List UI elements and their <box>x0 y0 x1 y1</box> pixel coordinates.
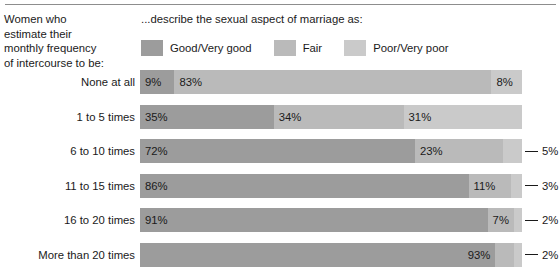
stub-header: Women who estimate their monthly frequen… <box>4 12 136 70</box>
leader-line <box>525 151 538 152</box>
stub-header-line-4: of intercourse to be: <box>4 56 136 71</box>
bar-segment-poor[interactable] <box>503 139 522 163</box>
bar-segment-good[interactable]: 72% <box>140 139 415 163</box>
row-category-label: More than 20 times <box>38 243 135 267</box>
bar-segment-fair[interactable]: 7% <box>488 208 515 232</box>
chart-row: 6 to 10 times5%72%23% <box>0 139 560 174</box>
stub-header-line-2: estimate their <box>4 27 136 42</box>
legend-label: Fair <box>303 40 322 56</box>
bar-segment-poor[interactable] <box>514 243 522 267</box>
segment-value-label: 72% <box>145 139 168 163</box>
chart-title: ...describe the sexual aspect of marriag… <box>141 12 363 27</box>
segment-callout-label: 3% <box>525 174 558 198</box>
stacked-bar: 86%11% <box>140 174 522 198</box>
bar-segment-poor[interactable] <box>514 208 522 232</box>
segment-value-label: 23% <box>420 139 443 163</box>
segment-value-label: 8% <box>496 70 512 94</box>
bar-segment-good[interactable]: 93% <box>140 243 495 267</box>
bar-segment-good[interactable]: 86% <box>140 174 469 198</box>
leader-line <box>525 185 538 186</box>
bar-segment-fair[interactable]: 11% <box>469 174 511 198</box>
legend-swatch-icon <box>274 40 296 56</box>
chart-row: 11 to 15 times3%86%11% <box>0 174 560 209</box>
bar-segment-good[interactable]: 91% <box>140 208 488 232</box>
stub-header-line-3: monthly frequency <box>4 41 136 56</box>
legend-swatch-icon <box>141 40 163 56</box>
segment-value-label: 11% <box>474 174 496 198</box>
segment-value-label: 34% <box>279 105 302 129</box>
bar-segment-poor[interactable]: 8% <box>491 70 522 94</box>
row-category-label: 16 to 20 times <box>64 208 135 232</box>
segment-callout-label: 2% <box>525 243 558 267</box>
chart-row: 1 to 5 times35%34%31% <box>0 105 560 140</box>
segment-value-label: 35% <box>145 105 168 129</box>
bar-segment-fair[interactable]: 23% <box>415 139 503 163</box>
row-category-label: None at all <box>81 70 135 94</box>
segment-value-label: 2% <box>542 208 558 232</box>
segment-value-label: 91% <box>145 208 168 232</box>
bar-segment-good[interactable]: 9% <box>140 70 174 94</box>
segment-value-label: 3% <box>542 174 558 198</box>
bar-segment-poor[interactable]: 31% <box>404 105 522 129</box>
segment-value-label: 2% <box>542 243 558 267</box>
bar-segment-fair[interactable] <box>495 243 514 267</box>
bar-segment-fair[interactable]: 83% <box>174 70 491 94</box>
segment-value-label: 86% <box>145 174 168 198</box>
legend-swatch-icon <box>344 40 366 56</box>
chart-row: None at all9%83%8% <box>0 70 560 105</box>
stacked-bar: 93% <box>140 243 522 267</box>
stacked-bar: 35%34%31% <box>140 105 522 129</box>
stub-header-line-1: Women who <box>4 12 136 27</box>
segment-callout-label: 5% <box>525 139 558 163</box>
bar-segment-good[interactable]: 35% <box>140 105 274 129</box>
bar-segment-poor[interactable] <box>511 174 522 198</box>
legend-label: Good/Very good <box>170 40 252 56</box>
row-category-label: 11 to 15 times <box>65 174 135 198</box>
segment-value-label: 7% <box>493 208 509 232</box>
chart-plot-area: None at all9%83%8%1 to 5 times35%34%31%6… <box>0 70 560 278</box>
row-category-label: 6 to 10 times <box>70 139 135 163</box>
legend-item: Good/Very good <box>141 40 252 56</box>
segment-value-label: 31% <box>409 105 432 129</box>
legend-label: Poor/Very poor <box>373 40 448 56</box>
bar-segment-fair[interactable]: 34% <box>274 105 404 129</box>
legend-item: Fair <box>274 40 322 56</box>
stacked-bar: 91%7% <box>140 208 522 232</box>
top-divider <box>5 4 556 5</box>
chart-row: 16 to 20 times2%91%7% <box>0 208 560 243</box>
segment-value-label: 9% <box>145 70 161 94</box>
stacked-bar-chart: Women who estimate their monthly frequen… <box>0 0 560 278</box>
leader-line <box>525 220 538 221</box>
chart-legend: Good/Very goodFairPoor/Very poor <box>141 39 448 56</box>
segment-value-label: 5% <box>542 139 558 163</box>
stacked-bar: 72%23% <box>140 139 522 163</box>
legend-item: Poor/Very poor <box>344 40 448 56</box>
segment-value-label: 93% <box>468 243 491 267</box>
row-category-label: 1 to 5 times <box>77 105 135 129</box>
segment-value-label: 83% <box>179 70 202 94</box>
chart-row: More than 20 times5%2%93% <box>0 243 560 278</box>
segment-callout-label: 2% <box>525 208 558 232</box>
stacked-bar: 9%83%8% <box>140 70 522 94</box>
leader-line <box>525 254 538 255</box>
